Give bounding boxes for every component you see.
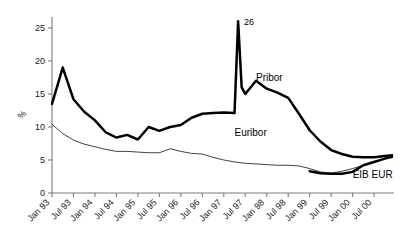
x-tick-label: Jan 00 xyxy=(326,197,352,223)
series-label-eib-eur: EIB EUR xyxy=(353,169,393,180)
y-axis-ticks xyxy=(48,28,52,193)
y-tick-label: 10 xyxy=(35,122,45,132)
series-label-euribor: Euribor xyxy=(235,127,268,138)
y-tick-label: 15 xyxy=(35,89,45,99)
x-tick-label: Jan 99 xyxy=(283,197,309,223)
x-axis-ticks xyxy=(52,193,374,197)
x-tick-label: Jan 98 xyxy=(240,197,266,223)
y-tick-label: 0 xyxy=(40,188,45,198)
data-annotation-group: 26 xyxy=(244,17,254,27)
peak-value-annotation: 26 xyxy=(244,17,254,27)
series-line-euribor xyxy=(52,124,392,173)
y-tick-label: 5 xyxy=(40,155,45,165)
y-axis-tick-labels: 0510152025 xyxy=(35,23,45,198)
axes-group xyxy=(48,17,394,197)
chart-figure: 0510152025 Jan 93Jul 93Jan 94Jul 94Jan 9… xyxy=(0,0,410,247)
y-tick-label: 25 xyxy=(35,23,45,33)
x-tick-label: Jul 00 xyxy=(349,197,373,221)
x-axis-tick-labels: Jan 93Jul 93Jan 94Jul 94Jan 95Jul 95Jan … xyxy=(25,197,373,223)
x-tick-label: Jan 96 xyxy=(154,197,180,223)
x-tick-label: Jan 94 xyxy=(68,197,94,223)
y-axis-title: % xyxy=(16,109,29,122)
y-tick-label: 20 xyxy=(35,56,45,66)
line-chart: 0510152025 Jan 93Jul 93Jan 94Jul 94Jan 9… xyxy=(0,0,410,247)
series-line-pribor xyxy=(52,21,392,157)
series-label-pribor: Pribor xyxy=(256,72,283,83)
data-series-group xyxy=(52,21,392,174)
x-tick-label: Jan 97 xyxy=(197,197,223,223)
x-tick-label: Jan 95 xyxy=(111,197,137,223)
x-tick-label: Jan 93 xyxy=(25,197,51,223)
